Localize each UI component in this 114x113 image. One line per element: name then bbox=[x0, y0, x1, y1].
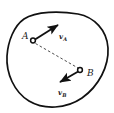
vector-label-v-b: vB bbox=[58, 89, 66, 96]
vector-diagram-figure: A B vA vB bbox=[0, 0, 114, 113]
point-label-b: B bbox=[87, 69, 94, 78]
velocity-vector-a-arrow bbox=[35, 25, 58, 40]
dashed-connector-a-to-b bbox=[36, 44, 79, 69]
point-marker-a bbox=[31, 38, 36, 43]
point-label-a: A bbox=[22, 32, 29, 41]
vector-label-v-b-subscript: B bbox=[62, 92, 66, 98]
velocity-vector-b-arrow bbox=[60, 72, 78, 83]
vector-label-v-a-subscript: A bbox=[63, 36, 67, 42]
diagram-canvas bbox=[0, 0, 114, 113]
vector-label-v-a: vA bbox=[59, 33, 67, 40]
point-marker-b bbox=[78, 68, 83, 73]
